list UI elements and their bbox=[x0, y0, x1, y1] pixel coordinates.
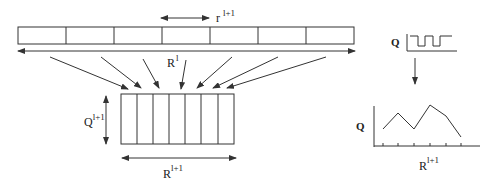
R-plot-label: Rl+1 bbox=[419, 155, 439, 173]
lower-box bbox=[121, 94, 234, 144]
Q-plot-label: Q bbox=[356, 120, 365, 132]
Q-signal-label: Q bbox=[391, 36, 400, 48]
R-box-label: Rl+1 bbox=[163, 163, 183, 181]
diagram-canvas: rl+1 Rl Ql+1 R bbox=[0, 0, 492, 185]
line-plot bbox=[374, 105, 480, 147]
r-label: rl+1 bbox=[216, 8, 235, 25]
square-wave-signal bbox=[407, 34, 457, 51]
top-strip bbox=[18, 27, 354, 44]
R-top-label: Rl bbox=[167, 53, 179, 70]
Q-box-label: Ql+1 bbox=[84, 112, 105, 129]
converging-arrows bbox=[50, 57, 326, 89]
